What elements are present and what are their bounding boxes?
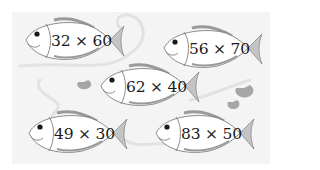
lily-pad-icon — [77, 80, 91, 89]
fish-expression: 49 × 30 — [54, 127, 115, 143]
fish-expression: 56 × 70 — [189, 42, 250, 58]
fish-expression: 62 × 40 — [126, 80, 187, 96]
fish-expression: 32 × 60 — [51, 34, 112, 50]
lily-pad-icon — [235, 85, 253, 97]
fish-expression: 83 × 50 — [181, 127, 242, 143]
lily-pad-icon — [227, 100, 239, 109]
